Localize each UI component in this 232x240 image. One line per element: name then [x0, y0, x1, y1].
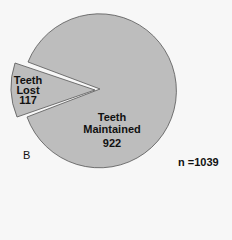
- sample-size-label: n =1039: [178, 156, 219, 168]
- maint-label-line1: Teeth: [98, 111, 127, 123]
- panel-label: B: [23, 149, 30, 161]
- lost-value: 117: [19, 94, 37, 106]
- maint-label-line2: Maintained: [83, 123, 140, 135]
- label-teeth-lost: Teeth Lost 117: [6, 75, 50, 105]
- label-teeth-maintained: Teeth Maintained 922: [67, 111, 157, 149]
- maint-value: 922: [67, 137, 157, 149]
